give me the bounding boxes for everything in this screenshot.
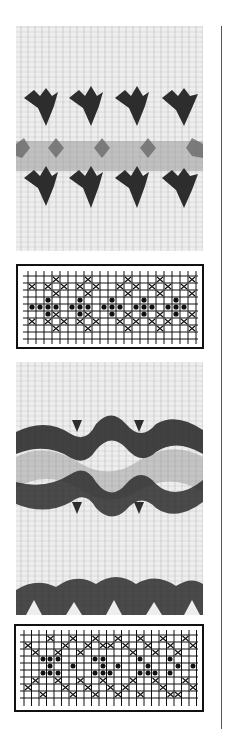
chart-2-grid xyxy=(16,626,202,710)
stitch-chart-1 xyxy=(16,264,204,349)
knit-swatch-1 xyxy=(16,26,203,251)
chart-1-grid xyxy=(18,266,202,347)
swatch-1-pattern xyxy=(16,26,203,251)
swatch-2-pattern xyxy=(16,362,203,615)
page-margin-rule xyxy=(221,26,222,729)
stitch-chart-2 xyxy=(14,624,204,712)
knit-swatch-2 xyxy=(16,362,203,615)
